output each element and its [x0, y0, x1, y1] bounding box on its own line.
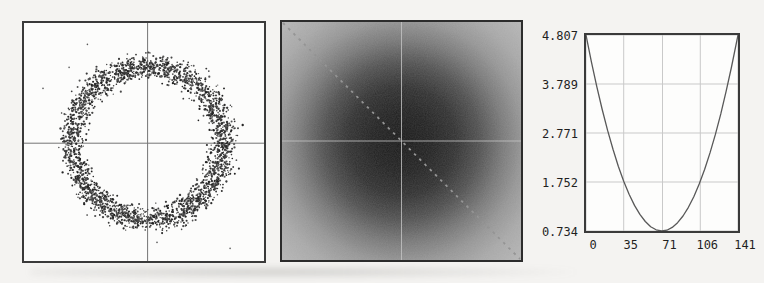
- x-tick-label: 71: [650, 238, 690, 252]
- figure-canvas: 4.8073.7892.7711.7520.734 03571106141: [0, 0, 764, 283]
- y-tick-label: 1.752: [542, 176, 578, 190]
- x-tick-label: 106: [687, 238, 727, 252]
- x-tick-label: 35: [611, 238, 651, 252]
- error-curve-panel: [584, 33, 740, 233]
- y-axis-tick-labels: 4.8073.7892.7711.7520.734: [530, 0, 578, 283]
- grayscale-image-panel: [280, 20, 523, 262]
- error-curve-plot: [586, 35, 738, 231]
- x-tick-label: 141: [725, 238, 764, 252]
- film-grain: [282, 22, 521, 260]
- ring-scatter-panel: [22, 21, 266, 263]
- x-tick-label: 0: [573, 238, 613, 252]
- y-tick-label: 0.734: [542, 225, 578, 239]
- y-tick-label: 2.771: [542, 127, 578, 141]
- y-tick-label: 3.789: [542, 78, 578, 92]
- scan-smudge: [30, 266, 575, 278]
- grayscale-image-overlay: [282, 22, 521, 260]
- ring-scatter-plot: [24, 23, 264, 261]
- y-tick-label: 4.807: [542, 29, 578, 43]
